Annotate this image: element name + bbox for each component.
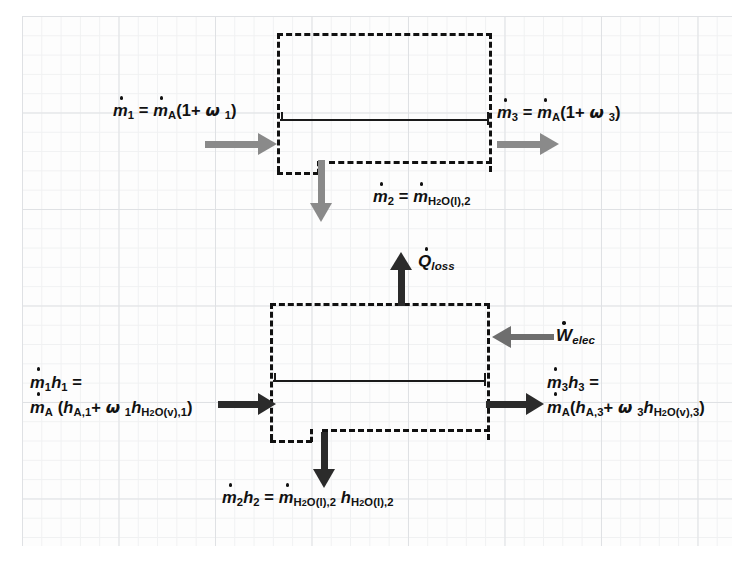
mass-inlet-arrow [205, 133, 277, 155]
energy-outlet-label: m3h3 = mA(hA,3+ ω 3hH2O(v),3) [547, 371, 705, 421]
energy-outlet-label-line1: m3h3 = [547, 371, 705, 396]
cv-boundary-right [489, 33, 492, 172]
mass-outlet-arrow [497, 133, 559, 155]
energy-balance-control-volume [270, 303, 490, 440]
mass-inlet-label: m1 = mA(1+ ω 1) [113, 100, 237, 123]
energy-cv-boundary-bottom-left-stub [270, 440, 312, 443]
mass-cv-interior-line-cap-left [281, 112, 283, 121]
energy-inlet-label: m1h1 = mA (hA,1+ ω 1hH2O(v),1) [30, 371, 193, 421]
energy-cv-interior-line [273, 380, 485, 382]
mass-condensate-label: m2 = mH2O(l),2 [373, 186, 471, 209]
energy-inlet-label-line2: mA (hA,1+ ω 1hH2O(v),1) [30, 396, 193, 421]
energy-outlet-arrow [486, 393, 544, 415]
mass-balance-control-volume [277, 33, 492, 172]
energy-inlet-arrow [218, 393, 276, 415]
heat-loss-label: Qloss [418, 251, 455, 274]
energy-condensate-arrow [313, 432, 335, 488]
electrical-work-arrow [492, 326, 554, 348]
cv-boundary-bottom-main [329, 161, 492, 164]
energy-cv-boundary-top [270, 303, 490, 306]
mass-outlet-label: m3 = mA(1+ ω 3) [497, 102, 621, 125]
diagram-canvas: m1 = mA(1+ ω 1) m3 = mA(1+ ω 3) m2 = mH2… [0, 0, 756, 562]
energy-inlet-label-line1: m1h1 = [30, 371, 193, 396]
mass-condensate-arrow [310, 160, 332, 222]
cv-boundary-top [277, 33, 492, 36]
electrical-work-label: Welec [556, 325, 595, 348]
energy-cv-boundary-right [487, 303, 490, 440]
cv-boundary-left [277, 33, 280, 172]
energy-cv-interior-line-cap-right [484, 373, 486, 386]
energy-outlet-label-line2: mA(hA,3+ ω 3hH2O(v),3) [547, 396, 705, 421]
energy-cv-boundary-left [270, 303, 273, 440]
energy-cv-interior-line-cap-left [274, 373, 276, 382]
mass-cv-interior-line [280, 119, 488, 121]
heat-loss-arrow [390, 252, 412, 306]
energy-condensate-label: m2h2 = mH2O(l),2 hH2O(l),2 [222, 487, 394, 510]
mass-cv-interior-line-cap-right [487, 112, 489, 125]
energy-cv-boundary-bottom-main [322, 429, 490, 432]
